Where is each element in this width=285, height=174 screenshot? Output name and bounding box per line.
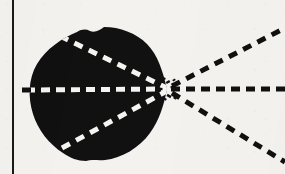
figure-canvas — [0, 0, 285, 174]
figure-drawing — [0, 0, 285, 174]
